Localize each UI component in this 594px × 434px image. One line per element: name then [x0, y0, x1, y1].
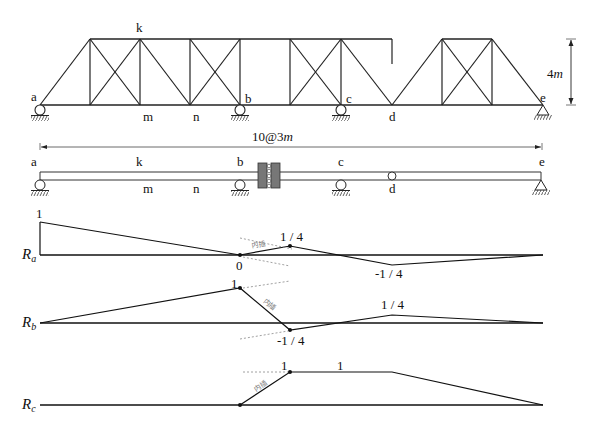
span-label: 10@3m	[252, 129, 293, 144]
diagonal-member	[492, 39, 543, 105]
rb-symbol: Rb	[21, 314, 36, 332]
beam-pin-e	[532, 180, 550, 195]
height-label: 4m	[547, 66, 563, 81]
beam-model: 10@3m	[31, 129, 550, 196]
rc-symbol: Rc	[21, 396, 36, 414]
ra-label-neg: -1 / 4	[375, 266, 403, 281]
beam-label-m: m	[143, 181, 153, 196]
beam-label-k: k	[136, 154, 143, 169]
rc-label-plateau: 1	[337, 358, 344, 373]
beam-roller-c	[332, 180, 350, 196]
beam-roller-a	[31, 180, 49, 196]
ra-node-dot	[288, 244, 292, 248]
beam-label-b: b	[237, 154, 244, 169]
roller-support-a	[31, 105, 49, 121]
diagonal-member	[392, 39, 442, 105]
ra-symbol: Ra	[21, 246, 36, 264]
rb-label-pos: 1 / 4	[381, 297, 405, 312]
diagram-canvas: a k m n b c d e 4m 10@3m	[0, 0, 594, 434]
ra-label-pos: 1 / 4	[280, 229, 304, 244]
rb-node-dot	[238, 286, 242, 290]
hinge-d	[388, 172, 396, 180]
sliding-connector	[258, 163, 280, 188]
influence-line-rb: Rb 内插 1 -1 / 4 1 / 4	[21, 276, 543, 348]
ra-label-left: 1	[36, 206, 43, 221]
rb-label-neg: -1 / 4	[277, 333, 305, 348]
rc-curve	[240, 372, 543, 405]
diagonal-member	[40, 39, 90, 105]
rc-interpolation-note: 内插	[252, 378, 269, 393]
roller-support-c	[332, 105, 350, 121]
beam-label-c: c	[338, 154, 344, 169]
rc-label-peak: 1	[281, 358, 288, 373]
node-label-d: d	[389, 109, 396, 124]
node-label-n: n	[193, 109, 200, 124]
influence-line-rc: Rc 内插 1 1	[21, 358, 543, 414]
rc-node-dot	[288, 370, 292, 374]
node-label-a: a	[31, 89, 37, 104]
truss: a k m n b c d e 4m	[31, 20, 576, 124]
pin-support-e	[534, 105, 552, 120]
node-label-b: b	[245, 91, 252, 106]
ra-node-dot	[238, 253, 242, 257]
height-dimension: 4m	[547, 39, 576, 105]
ra-extension-lower	[243, 257, 290, 266]
rb-label-peak: 1	[231, 276, 238, 291]
rb-extension-upper	[243, 281, 290, 288]
node-label-e: e	[540, 90, 546, 105]
influence-line-ra: Ra 内插 1 0 1 / 4 -1 / 4	[21, 206, 543, 281]
node-label-c: c	[346, 91, 352, 106]
rb-interpolation-note: 内插	[262, 297, 279, 313]
beam-label-a: a	[31, 154, 37, 169]
beam-roller-b	[231, 180, 249, 196]
node-label-m: m	[143, 109, 153, 124]
rb-node-dot	[288, 328, 292, 332]
roller-support-b	[231, 105, 249, 121]
beam-label-e: e	[539, 154, 545, 169]
rc-node-dot	[238, 403, 242, 407]
beam-label-n: n	[193, 181, 200, 196]
diagonal-member	[140, 39, 190, 105]
node-label-k: k	[136, 20, 143, 35]
beam-label-d: d	[389, 181, 396, 196]
span-dimension: 10@3m	[40, 129, 542, 150]
ra-label-zero: 0	[236, 258, 243, 273]
